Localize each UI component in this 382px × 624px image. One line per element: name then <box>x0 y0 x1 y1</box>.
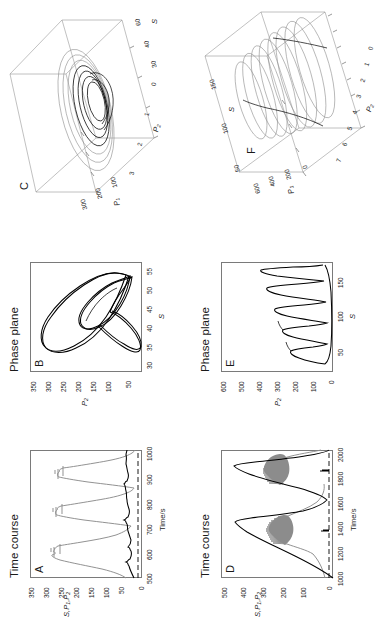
panel-e: Phase plane E 600 500 400 300 200 100 0 … <box>191 216 382 416</box>
panel-a-ytick-0: 0 <box>138 586 145 590</box>
panel-d-yaxis-sub1: 1 <box>256 602 262 605</box>
figure-rotation-wrapper: Time course A 350 300 250 200 150 100 50… <box>0 0 382 624</box>
panel-b-ytick-150: 150 <box>90 381 97 392</box>
panel-d-ytick-400: 400 <box>240 587 247 598</box>
panel-d-yaxis-sub2: 2 <box>256 592 262 595</box>
figure-canvas: Time course A 350 300 250 200 150 100 50… <box>0 0 382 624</box>
panel-c-3d <box>0 0 191 216</box>
panel-d-curves <box>221 450 333 578</box>
panel-a-ytick-50: 50 <box>118 587 125 594</box>
panel-b-xtick-30: 30 <box>146 362 153 369</box>
panel-e-title: Phase plane <box>199 307 211 372</box>
panel-d-xaxis-label: Time/s <box>349 509 358 532</box>
panel-b: Phase plane B 350 300 250 200 150 100 50… <box>0 216 191 416</box>
panel-d-ytick-200: 200 <box>280 587 287 598</box>
panel-c: C 300 20 <box>0 0 191 216</box>
panel-b-ytick-300: 300 <box>45 381 52 392</box>
panel-b-yaxis-P: P <box>80 401 89 406</box>
panel-b-yaxis-sub: 2 <box>83 398 89 401</box>
panel-d-ytick-500: 500 <box>221 587 228 598</box>
panel-e-xtick-100: 100 <box>337 311 344 322</box>
panel-a-ytick-300: 300 <box>43 587 50 598</box>
panel-a-yaxis-label: S,P1,P2 <box>62 592 71 617</box>
panel-d-xtick-1400: 1400 <box>337 522 344 536</box>
panel-b-curves <box>30 262 142 372</box>
panel-e-xaxis-label: S <box>348 314 357 319</box>
panel-b-xtick-50: 50 <box>146 287 153 294</box>
panel-a-xtick-700: 700 <box>146 524 153 535</box>
panel-d-ytick-0: 0 <box>326 586 333 590</box>
panel-a: Time course A 350 300 250 200 150 100 50… <box>0 416 191 624</box>
panel-e-yaxis-sub: 2 <box>276 398 282 401</box>
panel-d-xtick-1800: 1800 <box>337 472 344 486</box>
panel-a-yaxis-sub2: 2 <box>65 592 71 595</box>
panel-e-ytick-300: 300 <box>274 381 281 392</box>
panel-a-xtick-500: 500 <box>146 573 153 584</box>
panel-a-xtick-800: 800 <box>146 499 153 510</box>
panel-b-ytick-100: 100 <box>105 381 112 392</box>
panel-e-xtick-50: 50 <box>337 349 344 356</box>
panel-a-yaxis-P2: ,P <box>62 595 71 602</box>
panel-a-yaxis-sub1: 1 <box>65 602 71 605</box>
panel-b-ytick-250: 250 <box>60 381 67 392</box>
panel-a-yaxis-S-P: S,P <box>62 605 71 617</box>
panel-b-ytick-350: 350 <box>30 381 37 392</box>
panel-f-s-label: S <box>227 107 236 112</box>
panel-d-title: Time course <box>199 514 211 578</box>
panel-d-yaxis-P2: ,P <box>253 595 262 602</box>
panel-b-xtick-40: 40 <box>146 325 153 332</box>
panel-a-ytick-200: 200 <box>73 587 80 598</box>
panel-d: Time course D 500 400 300 200 100 0 S,P1… <box>191 416 382 624</box>
panel-a-ytick-350: 350 <box>28 587 35 598</box>
panel-b-xaxis-label: S <box>157 314 166 319</box>
panel-d-xtick-1200: 1200 <box>337 547 344 561</box>
panel-a-xaxis-label: Time/s <box>158 509 167 532</box>
panel-f-3d <box>191 0 382 216</box>
panel-d-xtick-1000: 1000 <box>337 572 344 586</box>
panel-b-xtick-45: 45 <box>146 306 153 313</box>
panel-e-xtick-150: 150 <box>337 277 344 288</box>
panel-d-yaxis-S-P: S,P <box>253 605 262 617</box>
panel-a-ytick-100: 100 <box>103 587 110 598</box>
panel-a-ytick-150: 150 <box>88 587 95 598</box>
panel-a-title: Time course <box>8 514 20 578</box>
panel-b-ytick-50: 50 <box>125 381 132 388</box>
panel-c-s-label: S <box>150 19 159 24</box>
panel-a-xtick-900: 900 <box>146 474 153 485</box>
panel-e-ytick-200: 200 <box>292 381 299 392</box>
panel-b-xtick-35: 35 <box>146 344 153 351</box>
panel-e-ytick-500: 500 <box>238 381 245 392</box>
panel-d-xtick-2000: 2000 <box>337 448 344 462</box>
panel-b-yaxis-label: P2 <box>80 398 89 406</box>
panel-a-xtick-600: 600 <box>146 549 153 560</box>
panel-e-curves <box>221 262 333 372</box>
panel-a-xtick-1000: 1000 <box>146 447 153 461</box>
panel-a-curves <box>30 450 142 578</box>
panel-e-ytick-100: 100 <box>310 381 317 392</box>
panel-d-ytick-100: 100 <box>300 587 307 598</box>
panel-d-yaxis-label: S,P1,P2 <box>253 592 262 617</box>
panel-e-ytick-400: 400 <box>256 381 263 392</box>
panel-e-yaxis-label: P2 <box>273 398 282 406</box>
panel-e-yaxis-P: P <box>273 401 282 406</box>
panel-e-ytick-600: 600 <box>220 381 227 392</box>
panel-c-p2-label: P2 <box>151 123 162 133</box>
panel-b-xtick-55: 55 <box>146 268 153 275</box>
panel-e-ytick-0: 0 <box>328 380 335 384</box>
panel-b-title: Phase plane <box>8 307 20 372</box>
panel-b-ytick-200: 200 <box>75 381 82 392</box>
panel-d-xtick-1600: 1600 <box>337 497 344 511</box>
panel-f: F <box>191 0 382 216</box>
